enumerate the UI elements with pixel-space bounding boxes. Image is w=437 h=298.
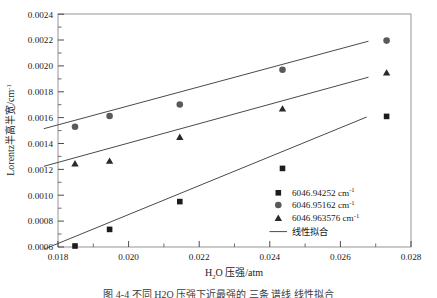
y-tick-label: 0.0022 xyxy=(28,35,54,45)
data-point xyxy=(177,199,183,205)
x-tick-label: 0.028 xyxy=(401,252,422,262)
y-tick-label: 0.0024 xyxy=(28,10,54,20)
data-point xyxy=(106,113,113,120)
x-tick-label: 0.026 xyxy=(330,252,351,262)
y-tick-label: 0.0014 xyxy=(28,139,54,149)
data-point xyxy=(280,166,286,172)
x-axis-title-post: O 压强/atm xyxy=(216,267,264,278)
x-tick-label: 0.022 xyxy=(189,252,210,262)
legend-label-series-3: 6046.963576 cm-1 xyxy=(292,212,359,223)
data-point xyxy=(177,101,184,108)
legend-label-series-2: 6046.95162 cm-1 xyxy=(292,199,355,210)
y-tick-label: 0.0008 xyxy=(28,216,54,226)
y-tick-label: 0.0018 xyxy=(28,87,54,97)
data-point xyxy=(72,123,79,130)
legend-label-series-1: 6046.94252 cm-1 xyxy=(292,186,355,197)
x-tick-label: 0.020 xyxy=(118,252,139,262)
data-point xyxy=(107,227,113,233)
lorentz-halfwidth-vs-pressure-chart: 0.0006 0.0008 0.0010 0.0012 0.0014 0.001… xyxy=(0,0,437,298)
data-point xyxy=(72,243,78,249)
legend-label-fit: 线性拟合 xyxy=(292,226,328,237)
legend-marker-square-icon xyxy=(276,190,282,196)
y-axis-title: Lorentz半高半宽/cm-1 xyxy=(4,84,16,176)
legend-marker-circle-icon xyxy=(275,202,282,209)
y-axis-title-main: Lorentz半高半宽/cm xyxy=(4,89,16,175)
x-tick-label: 0.018 xyxy=(48,252,69,262)
y-tick-label: 0.0016 xyxy=(28,113,54,123)
figure-caption: 图 4-4 不同 H2O 压强下近最强的 三条 谱线 线性拟合 xyxy=(0,289,437,298)
figure-container: 0.0006 0.0008 0.0010 0.0012 0.0014 0.001… xyxy=(0,0,437,298)
data-point xyxy=(384,114,390,120)
y-tick-label: 0.0010 xyxy=(28,191,54,201)
x-axis-title: H2O 压强/atm xyxy=(205,267,263,280)
y-axis-title-sup: -1 xyxy=(5,84,12,90)
data-point xyxy=(279,67,286,74)
data-point xyxy=(383,37,390,44)
y-tick-label: 0.0020 xyxy=(28,61,54,71)
x-tick-label: 0.024 xyxy=(259,252,280,262)
figure-caption-text: 图 4-4 不同 H2O 压强下近最强的 三条 谱线 线性拟合 xyxy=(0,289,437,298)
svg-text:Lorentz半高半宽/cm-1: Lorentz半高半宽/cm-1 xyxy=(4,84,16,176)
x-axis-title-pre: H xyxy=(205,267,212,278)
y-tick-label: 0.0012 xyxy=(28,165,54,175)
